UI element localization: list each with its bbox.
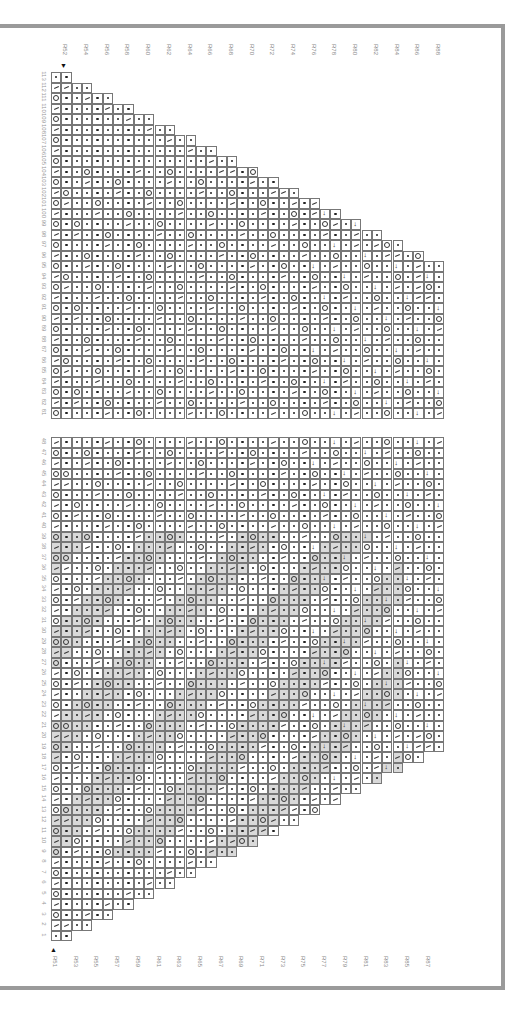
chart-cell: → (362, 448, 372, 459)
chart-cell (310, 668, 320, 679)
chart-cell (144, 398, 154, 409)
chart-cell (351, 710, 361, 721)
chart-cell (51, 574, 61, 585)
chart-cell (403, 521, 413, 532)
chart-cell: → (310, 710, 320, 721)
chart-cell (320, 230, 330, 241)
chart-cell (72, 794, 82, 805)
chart-cell (134, 156, 144, 167)
chart-cell (113, 104, 123, 115)
chart-cell (434, 335, 444, 346)
chart-cell (382, 324, 392, 335)
chart-cell (61, 679, 71, 690)
chart-cell (403, 532, 413, 543)
chart-cell (134, 584, 144, 595)
chart-cell (248, 605, 258, 616)
chart-cell (341, 251, 351, 262)
chart-cell (320, 553, 330, 564)
chart-cell (51, 920, 61, 931)
chart-cell (279, 752, 289, 763)
chart-cell (237, 710, 247, 721)
chart-cell (103, 156, 113, 167)
chart-cell (155, 356, 165, 367)
chart-cell (227, 303, 237, 314)
chart-cell (258, 356, 268, 367)
chart-cell (403, 731, 413, 742)
chart-cell (434, 469, 444, 480)
chart-cell (82, 679, 92, 690)
chart-cell (258, 490, 268, 501)
chart-cell (196, 146, 206, 157)
chart-cell (258, 794, 268, 805)
chart-cell (237, 637, 247, 648)
chart-cell (196, 742, 206, 753)
chart-cell (341, 261, 351, 272)
chart-cell (206, 251, 216, 262)
chart-cell (403, 458, 413, 469)
chart-cell (341, 324, 351, 335)
chart-cell (92, 899, 102, 910)
row-label: R55 (93, 956, 99, 967)
chart-cell (382, 668, 392, 679)
chart-cell (424, 303, 434, 314)
chart-cell (248, 658, 258, 669)
chart-cell: → (341, 553, 351, 564)
chart-cell (186, 784, 196, 795)
chart-cell (61, 815, 71, 826)
chart-cell (113, 458, 123, 469)
chart-cell (155, 366, 165, 377)
chart-cell (341, 345, 351, 356)
chart-cell (175, 469, 185, 480)
chart-cell (382, 335, 392, 346)
chart-cell (320, 605, 330, 616)
chart-cell (72, 868, 82, 879)
chart-cell (372, 616, 382, 627)
chart-cell (279, 584, 289, 595)
chart-cell (155, 146, 165, 157)
chart-cell (113, 125, 123, 136)
chart-cell (289, 710, 299, 721)
chart-cell (268, 773, 278, 784)
row-label: R61 (156, 956, 162, 967)
chart-cell (206, 574, 216, 585)
chart-cell (299, 408, 309, 419)
chart-cell (299, 595, 309, 606)
chart-cell (196, 167, 206, 178)
chart-cell (372, 387, 382, 398)
chart-cell (155, 647, 165, 658)
chart-cell (341, 658, 351, 669)
chart-cell (330, 710, 340, 721)
chart-cell (248, 763, 258, 774)
chart-cell (175, 742, 185, 753)
chart-cell (113, 553, 123, 564)
chart-cell (434, 647, 444, 658)
chart-cell (382, 251, 392, 262)
chart-cell (155, 731, 165, 742)
chart-cell (144, 230, 154, 241)
chart-cell (424, 542, 434, 553)
chart-cell (113, 563, 123, 574)
chart-cell (217, 784, 227, 795)
chart-cell (92, 595, 102, 606)
chart-cell (382, 605, 392, 616)
chart-cell (268, 521, 278, 532)
chart-cell (92, 857, 102, 868)
chart-cell (123, 742, 133, 753)
chart-cell: → (330, 240, 340, 251)
chart-cell (310, 773, 320, 784)
chart-cell (372, 752, 382, 763)
chart-cell (196, 261, 206, 272)
chart-cell (351, 742, 361, 753)
chart-cell (186, 868, 196, 879)
chart-cell (51, 721, 61, 732)
chart-cell (393, 616, 403, 627)
chart-cell (320, 584, 330, 595)
chart-cell (72, 293, 82, 304)
chart-cell (196, 366, 206, 377)
chart-cell (424, 605, 434, 616)
chart-cell (186, 731, 196, 742)
chart-cell (403, 314, 413, 325)
chart-cell (299, 584, 309, 595)
chart-cell (155, 272, 165, 283)
row-label: R78 (331, 44, 337, 55)
